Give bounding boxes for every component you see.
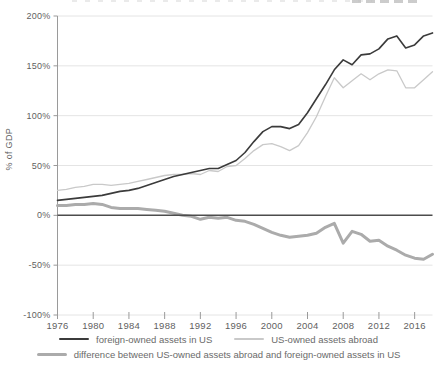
series-line-1 bbox=[58, 70, 433, 191]
legend-label-foreign-owned: foreign-owned assets in US bbox=[96, 334, 212, 345]
x-tick-label: 1992 bbox=[189, 320, 211, 331]
legend-swatch-difference bbox=[37, 353, 67, 356]
y-tick-label: 150% bbox=[26, 61, 50, 71]
legend-item-us-owned-assets: US-owned assets abroad bbox=[234, 334, 378, 345]
series-line-2 bbox=[58, 203, 433, 259]
chart-plot: 200%150%100%50%0%-50%-100%19761980198419… bbox=[0, 0, 437, 372]
series-line-0 bbox=[58, 33, 433, 201]
legend-swatch-foreign-owned bbox=[59, 338, 89, 340]
y-tick-label: 100% bbox=[26, 111, 50, 121]
legend-label-difference: difference between US-owned assets abroa… bbox=[74, 349, 401, 360]
legend: foreign-owned assets in US US-owned asse… bbox=[0, 331, 437, 361]
x-tick-label: 2016 bbox=[404, 320, 426, 331]
legend-row-1: foreign-owned assets in US US-owned asse… bbox=[0, 332, 437, 346]
x-tick-label: 1984 bbox=[118, 320, 140, 331]
x-tick-label: 1976 bbox=[46, 320, 68, 331]
legend-item-difference: difference between US-owned assets abroa… bbox=[37, 349, 401, 360]
y-tick-label: -100% bbox=[23, 310, 50, 320]
y-tick-label: 0% bbox=[37, 210, 51, 220]
legend-item-foreign-owned-assets: foreign-owned assets in US bbox=[59, 334, 212, 345]
x-tick-label: 2004 bbox=[296, 320, 318, 331]
x-tick-label: 2008 bbox=[332, 320, 354, 331]
x-tick-label: 2012 bbox=[368, 320, 390, 331]
y-axis-title: % of GDP bbox=[4, 128, 14, 170]
y-tick-label: -50% bbox=[28, 260, 50, 270]
legend-swatch-us-owned bbox=[234, 338, 264, 340]
y-tick-label: 200% bbox=[26, 11, 50, 21]
x-tick-label: 1980 bbox=[82, 320, 104, 331]
legend-label-us-owned: US-owned assets abroad bbox=[271, 334, 378, 345]
x-tick-label: 1988 bbox=[154, 320, 176, 331]
chart-figure: 200%150%100%50%0%-50%-100%19761980198419… bbox=[0, 0, 437, 372]
x-tick-label: 2000 bbox=[261, 320, 283, 331]
y-tick-label: 50% bbox=[32, 161, 51, 171]
x-tick-label: 1996 bbox=[225, 320, 247, 331]
legend-row-2: difference between US-owned assets abroa… bbox=[0, 347, 437, 361]
